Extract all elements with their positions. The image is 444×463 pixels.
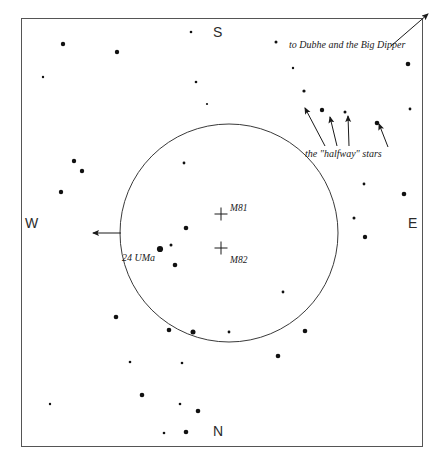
star-point xyxy=(114,315,119,320)
star-point xyxy=(320,108,324,112)
star-point xyxy=(184,430,189,435)
star-point xyxy=(167,328,172,333)
star-point xyxy=(228,331,231,334)
annotation-halfway-stars: the "halfway" stars xyxy=(305,148,382,159)
star-point xyxy=(275,41,278,44)
object-label-m82: M82 xyxy=(230,255,247,265)
star-point xyxy=(191,330,196,335)
star-point xyxy=(80,169,84,173)
star-point xyxy=(72,159,76,163)
star-point xyxy=(129,361,132,364)
star-point xyxy=(363,235,367,239)
star-point xyxy=(353,217,356,220)
star-point xyxy=(140,393,145,398)
cardinal-label-east: E xyxy=(408,215,418,231)
object-label-m81: M81 xyxy=(230,203,247,213)
chart-canvas xyxy=(0,0,444,463)
annotation-24-uma: 24 UMa xyxy=(122,252,155,263)
star-point xyxy=(170,244,173,247)
star-point xyxy=(402,192,407,197)
annotation-big-dipper: to Dubhe and the Big Dipper xyxy=(289,39,405,50)
star-point xyxy=(179,403,182,406)
cardinal-label-west: W xyxy=(25,215,39,231)
star-point xyxy=(409,108,412,111)
star-point xyxy=(276,354,281,359)
cardinal-label-north: N xyxy=(213,423,224,439)
star-point xyxy=(183,162,186,165)
star-point xyxy=(302,89,305,92)
star-point xyxy=(42,76,44,78)
star-point xyxy=(344,111,347,114)
star-point xyxy=(303,329,308,334)
star-finder-chart: S N W E to Dubhe and the Big Dipper the … xyxy=(0,0,444,463)
star-point xyxy=(363,183,366,186)
star-point xyxy=(195,81,198,84)
star-point xyxy=(406,62,411,67)
cardinal-label-south: S xyxy=(213,24,223,40)
star-point xyxy=(292,67,294,69)
star-point xyxy=(196,409,201,414)
star-point xyxy=(157,246,163,252)
star-point xyxy=(190,31,193,34)
star-point xyxy=(282,291,285,294)
star-point xyxy=(115,50,119,54)
star-point xyxy=(206,103,208,105)
star-point xyxy=(173,263,178,268)
star-point xyxy=(184,226,189,231)
star-point xyxy=(375,121,380,126)
star-point xyxy=(61,42,65,46)
star-point xyxy=(181,362,184,365)
star-point xyxy=(59,190,63,194)
chart-frame xyxy=(22,19,423,447)
star-point xyxy=(163,432,166,435)
star-point xyxy=(49,403,51,405)
